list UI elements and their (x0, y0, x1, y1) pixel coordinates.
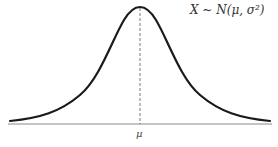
mean-tick-label: μ (136, 128, 143, 139)
distribution-formula-label: X ~ N(μ, σ²) (190, 3, 265, 17)
normal-curve-figure (0, 0, 278, 147)
